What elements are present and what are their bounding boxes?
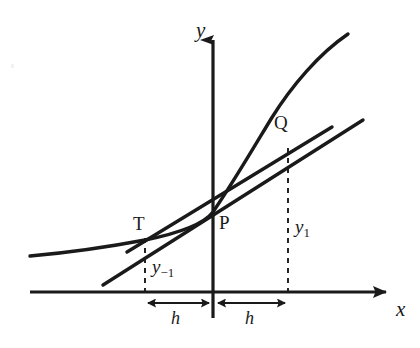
value-label-y-1: y1: [295, 217, 310, 240]
value-label-y-1-sub: 1: [303, 225, 309, 240]
value-label-y-minus-1-sub: −1: [160, 265, 174, 280]
point-label-Q: Q: [274, 113, 288, 132]
point-label-P: P: [219, 213, 230, 232]
x-axis-label: x: [396, 299, 405, 320]
math-diagram: y x T P Q y−1 y1 h h: [0, 0, 420, 348]
interval-label-h-left: h: [171, 309, 180, 327]
interval-label-h-right: h: [245, 309, 254, 327]
value-label-y-minus-1: y−1: [152, 257, 174, 280]
point-label-T: T: [133, 214, 145, 233]
tangent-line-at-P: [103, 120, 363, 285]
diagram-canvas: [0, 0, 420, 348]
y-axis-label: y: [196, 20, 205, 41]
